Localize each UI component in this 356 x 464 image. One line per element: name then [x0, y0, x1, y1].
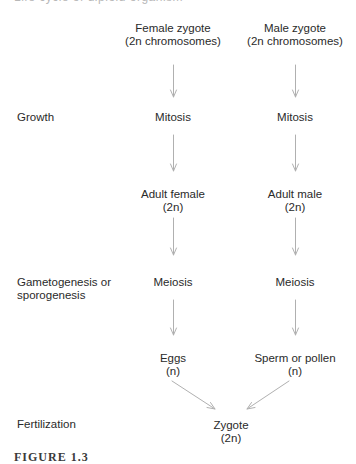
arrow-down-icon: [171, 218, 177, 255]
figure-caption: FIGURE 1.3: [14, 451, 89, 464]
arrow-diagonal-right-icon: [172, 381, 215, 409]
arrow-down-icon: [171, 135, 177, 171]
arrow-diagonal-left-icon: [247, 381, 289, 409]
arrow-down-icon: [171, 300, 177, 335]
arrow-down-icon: [171, 65, 177, 97]
arrow-down-icon: [293, 135, 299, 171]
arrow-down-icon: [293, 218, 299, 255]
arrow-down-icon: [293, 65, 299, 97]
arrow-down-icon: [293, 300, 299, 335]
